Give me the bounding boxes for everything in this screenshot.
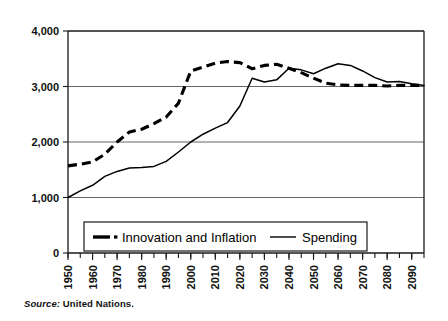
source-note-prefix: Source: [24,298,60,309]
y-tick-marks [63,31,68,253]
legend-label-innovation-and-inflation: Innovation and Inflation [122,230,256,245]
x-tick-label-2090: 2090 [406,265,418,289]
x-tick-label-2080: 2080 [381,265,393,289]
y-tick-label-1000: 1,000 [31,192,59,204]
y-tick-label-3000: 3,000 [31,81,59,93]
line-chart: 01,0002,0003,0004,000 195019601970198019… [0,0,448,321]
x-tick-label-2010: 2010 [209,265,221,289]
chart-legend[interactable]: Innovation and Inflation Spending [84,222,367,251]
x-axis-minor-ticks [68,253,424,258]
legend-label-spending: Spending [302,230,357,245]
x-axis-major-ticks [68,253,412,260]
y-tick-label-0: 0 [53,247,59,259]
x-tick-label-2000: 2000 [185,265,197,289]
source-note: Source: United Nations. [24,298,134,309]
x-tick-label-2060: 2060 [332,265,344,289]
y-tick-label-4000: 4,000 [31,25,59,37]
x-tick-label-2050: 2050 [308,265,320,289]
chart-container: 01,0002,0003,0004,000 195019601970198019… [0,0,448,321]
x-tick-label-1990: 1990 [160,265,172,289]
y-tick-label-2000: 2,000 [31,136,59,148]
legend-swatch-dot-icon [114,235,117,238]
y-axis-tick-labels: 01,0002,0003,0004,000 [31,25,59,259]
x-tick-label-2020: 2020 [234,265,246,289]
x-tick-label-2070: 2070 [357,265,369,289]
x-tick-label-2040: 2040 [283,265,295,289]
source-note-text: United Nations. [63,298,134,309]
x-tick-label-2030: 2030 [258,265,270,289]
x-tick-label-1950: 1950 [62,265,74,289]
x-tick-label-1970: 1970 [111,265,123,289]
x-tick-label-1980: 1980 [136,265,148,289]
x-axis-tick-labels: 1950196019701980199020002010202020302040… [62,265,418,289]
x-tick-label-1960: 1960 [87,265,99,289]
